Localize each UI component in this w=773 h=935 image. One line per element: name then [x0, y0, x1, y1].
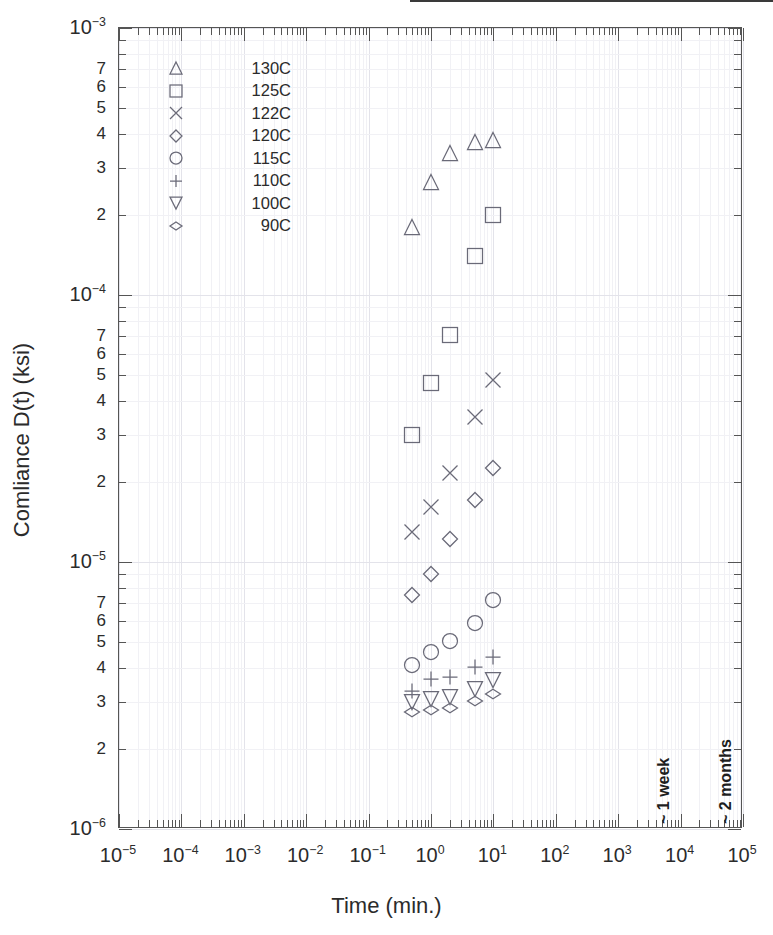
data-point-90c: [423, 701, 440, 718]
x-tick-label: 100: [415, 845, 444, 865]
data-point-110c: [423, 670, 440, 687]
legend-marker-icon: [165, 57, 199, 79]
y-tick-label: 10−4: [40, 284, 106, 304]
legend-item-90c[interactable]: 90C: [165, 215, 305, 238]
legend-item-125c[interactable]: 125C: [165, 80, 305, 103]
y-minor-tick-label: 7: [64, 327, 106, 344]
x-tick-label: 102: [540, 845, 569, 865]
data-point-110c: [485, 649, 502, 666]
data-point-120c: [485, 459, 502, 476]
data-point-125c: [441, 326, 458, 343]
chart-annotation: ~ 2 months: [717, 739, 735, 824]
legend-label: 110C: [199, 171, 297, 190]
legend-label: 130C: [199, 59, 297, 78]
data-point-125c: [404, 426, 421, 443]
data-point-122c: [485, 372, 502, 389]
data-point-115c: [423, 644, 440, 661]
x-tick-label: 10−5: [100, 845, 136, 865]
legend-marker-icon: [165, 192, 199, 214]
y-minor-tick-label: 7: [64, 60, 106, 77]
data-point-110c: [466, 658, 483, 675]
x-tick-label: 103: [603, 845, 632, 865]
legend-label: 125C: [199, 81, 297, 100]
y-minor-tick-label: 6: [64, 612, 106, 629]
y-tick-label: 10−3: [40, 17, 106, 37]
marker-glyph-icon: [169, 151, 183, 165]
data-point-90c: [466, 692, 483, 709]
x-tick-label: 10−3: [225, 845, 261, 865]
x-tick-label: 10−2: [287, 845, 323, 865]
y-minor-tick-label: 3: [64, 425, 106, 442]
legend-marker-icon: [165, 125, 199, 147]
x-tick-label: 101: [478, 845, 507, 865]
data-point-122c: [466, 408, 483, 425]
data-point-120c: [441, 530, 458, 547]
x-tick-label: 10−4: [162, 845, 198, 865]
marker-glyph-icon: [169, 129, 183, 143]
data-point-90c: [485, 686, 502, 703]
legend-item-130c[interactable]: 130C: [165, 57, 305, 80]
y-minor-tick-label: 7: [64, 594, 106, 611]
legend-label: 115C: [199, 149, 297, 168]
legend-item-120c[interactable]: 120C: [165, 125, 305, 148]
data-point-120c: [466, 492, 483, 509]
marker-glyph-icon: [169, 106, 183, 120]
data-point-130c: [441, 145, 458, 162]
data-point-115c: [441, 633, 458, 650]
marker-glyph-icon: [169, 196, 183, 210]
data-point-122c: [423, 499, 440, 516]
legend-item-115c[interactable]: 115C: [165, 147, 305, 170]
marker-glyph-icon: [169, 61, 183, 75]
data-point-122c: [404, 523, 421, 540]
y-minor-tick-label: 3: [64, 692, 106, 709]
data-point-120c: [404, 587, 421, 604]
legend: 130C125C122C120C115C110C100C90C: [165, 57, 305, 237]
data-point-130c: [423, 173, 440, 190]
y-minor-tick-label: 2: [64, 739, 106, 756]
legend-marker-icon: [165, 80, 199, 102]
x-tick-label: 105: [727, 845, 756, 865]
y-axis-title: Comliance D(t) (ksi): [9, 230, 35, 650]
legend-marker-icon: [165, 147, 199, 169]
legend-label: 100C: [199, 194, 297, 213]
y-minor-tick-label: 5: [64, 366, 106, 383]
data-point-115c: [485, 592, 502, 609]
x-axis-title: Time (min.): [0, 893, 773, 919]
data-point-122c: [441, 465, 458, 482]
data-point-125c: [485, 206, 502, 223]
legend-item-122c[interactable]: 122C: [165, 102, 305, 125]
data-point-130c: [466, 133, 483, 150]
x-tick-label: 104: [665, 845, 694, 865]
data-point-90c: [404, 703, 421, 720]
y-minor-tick-label: 2: [64, 472, 106, 489]
data-point-110c: [441, 669, 458, 686]
legend-marker-icon: [165, 102, 199, 124]
compliance-vs-time-chart: 10−510−410−310−210−110010110210310410510…: [0, 0, 773, 935]
y-minor-tick-label: 6: [64, 345, 106, 362]
data-point-115c: [404, 657, 421, 674]
data-point-115c: [466, 615, 483, 632]
data-point-130c: [404, 218, 421, 235]
data-point-90c: [441, 699, 458, 716]
y-tick-label: 10−5: [40, 551, 106, 571]
legend-marker-icon: [165, 215, 199, 237]
y-minor-tick-label: 6: [64, 78, 106, 95]
data-point-125c: [423, 374, 440, 391]
top-rule: [410, 0, 773, 2]
x-tick-label: 10−1: [349, 845, 385, 865]
y-minor-tick-label: 2: [64, 205, 106, 222]
y-minor-tick-label: 5: [64, 99, 106, 116]
y-minor-tick-label: 5: [64, 633, 106, 650]
legend-label: 90C: [199, 216, 297, 235]
legend-label: 120C: [199, 126, 297, 145]
legend-item-110c[interactable]: 110C: [165, 170, 305, 193]
y-minor-tick-label: 4: [64, 125, 106, 142]
chart-annotation: ~ 1 week: [655, 758, 673, 824]
legend-marker-icon: [165, 170, 199, 192]
data-point-130c: [485, 132, 502, 149]
marker-glyph-icon: [169, 84, 183, 98]
legend-item-100c[interactable]: 100C: [165, 192, 305, 215]
y-minor-tick-label: 4: [64, 659, 106, 676]
y-minor-tick-label: 4: [64, 392, 106, 409]
data-point-120c: [423, 566, 440, 583]
